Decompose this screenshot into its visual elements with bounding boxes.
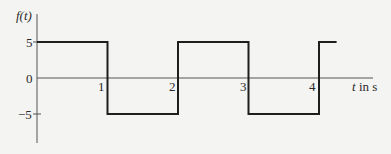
y-tick-label-0: 0: [26, 71, 33, 86]
x-tick-label-4: 4: [309, 79, 316, 94]
x-axis-label: t in s: [352, 79, 377, 94]
y-tick-label-neg5: −5: [18, 107, 32, 122]
x-tick-label-2: 2: [169, 79, 176, 94]
square-wave-chart: f(t) 5 0 −5 1 2 3 4 t in s: [0, 0, 391, 154]
y-tick-label-5: 5: [26, 35, 33, 50]
y-axis-label: f(t): [16, 8, 32, 23]
x-tick-label-1: 1: [98, 79, 105, 94]
x-tick-label-3: 3: [240, 79, 247, 94]
